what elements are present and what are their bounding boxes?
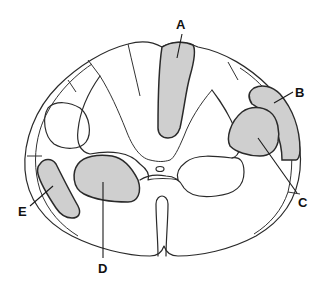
central-canal (156, 167, 164, 172)
divider-left-mid (68, 80, 76, 92)
ventral-horn-outline (140, 158, 244, 197)
region-C (229, 108, 279, 157)
label-B: B (295, 85, 304, 100)
label-D: D (98, 261, 107, 276)
region-D (74, 155, 139, 202)
anterior-median-fissure (156, 196, 168, 256)
label-C: C (298, 195, 308, 210)
divider-right-top (228, 62, 238, 80)
region-E (38, 160, 80, 219)
posterior-line-left (128, 44, 140, 96)
label-E: E (18, 204, 27, 219)
divider-left-top (88, 60, 100, 76)
label-A: A (176, 17, 186, 32)
spinal-cord-diagram: A B C D E (0, 0, 325, 287)
